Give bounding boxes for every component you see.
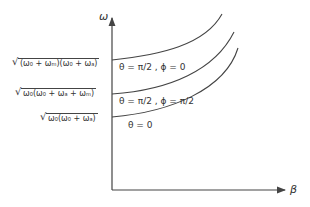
intercept-label-3: ω₀(ω₀ + ωₐ) <box>46 113 98 123</box>
curve-label-1: θ = π/2 , ϕ = 0 <box>119 63 185 72</box>
y-axis-label: ω <box>99 10 108 23</box>
curve-theta-0 <box>112 48 238 117</box>
curve-label-3: θ = 0 <box>128 121 153 130</box>
intercept-label-2: ω₀(ω₀ + ωₐ + ωₘ) <box>21 88 96 98</box>
x-axis-label: β <box>290 183 297 196</box>
curve-theta-pi2-phi-0 <box>112 14 222 60</box>
curve-label-2: θ = π/2 , ϕ = π/2 <box>119 97 194 106</box>
intercept-label-1: (ω₀ + ωₘ)(ω₀ + ωₐ) <box>18 58 99 68</box>
